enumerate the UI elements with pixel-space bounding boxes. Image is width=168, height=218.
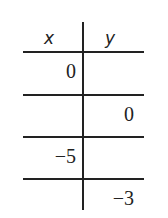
header-y: y: [105, 28, 115, 48]
row-divider: [23, 94, 144, 96]
row-divider: [23, 178, 144, 180]
cell-x-row3: −5: [55, 145, 76, 168]
header-x: x: [44, 28, 54, 48]
xy-table: x y 0 0 −5 −3: [0, 0, 168, 218]
cell-y-row2: 0: [124, 103, 134, 126]
cell-y-row4: −3: [113, 187, 134, 210]
row-divider: [23, 136, 144, 138]
cell-x-row1: 0: [66, 60, 76, 83]
row-divider: [23, 51, 144, 53]
